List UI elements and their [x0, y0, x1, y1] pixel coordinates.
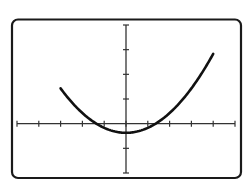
graphing-calculator-screen	[0, 0, 248, 190]
function-plot	[0, 0, 248, 190]
